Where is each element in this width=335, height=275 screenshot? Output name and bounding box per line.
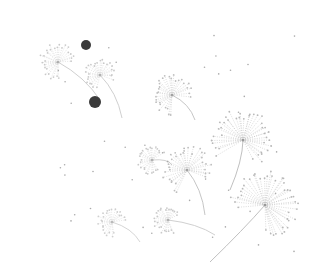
speck bbox=[225, 226, 227, 228]
speck bbox=[247, 64, 249, 66]
dandelion-seed bbox=[40, 44, 100, 100]
dandelion-seed bbox=[210, 171, 299, 263]
dandelion-seed bbox=[211, 111, 272, 190]
speck bbox=[64, 174, 66, 176]
dandelion-seed bbox=[153, 207, 215, 235]
speck bbox=[205, 178, 207, 180]
speck bbox=[275, 193, 277, 195]
speck bbox=[70, 103, 72, 105]
dandelion-seeds-art bbox=[0, 0, 335, 275]
speck bbox=[60, 167, 62, 169]
speck bbox=[90, 208, 92, 210]
speck bbox=[218, 73, 220, 75]
dandelion-seed bbox=[97, 208, 140, 242]
speck bbox=[124, 147, 126, 149]
speck bbox=[74, 214, 76, 216]
speck bbox=[92, 171, 94, 173]
speck bbox=[151, 233, 153, 235]
speck bbox=[249, 211, 251, 213]
dandelion-seed bbox=[162, 146, 212, 215]
speck bbox=[238, 111, 240, 113]
speck bbox=[64, 164, 66, 166]
speck bbox=[294, 35, 296, 37]
speck bbox=[213, 35, 215, 37]
speck bbox=[108, 47, 110, 49]
speck bbox=[115, 61, 117, 63]
speck bbox=[131, 179, 133, 181]
speck bbox=[230, 69, 232, 71]
speck bbox=[228, 190, 230, 192]
dandelion-seed bbox=[137, 146, 172, 175]
speck bbox=[204, 66, 206, 68]
speck bbox=[293, 251, 295, 253]
dandelion-illustration bbox=[0, 0, 335, 275]
speck bbox=[64, 81, 66, 83]
dandelion-seed bbox=[155, 74, 195, 120]
dark-seed-dot bbox=[81, 40, 91, 50]
speck bbox=[258, 244, 260, 246]
speck bbox=[162, 152, 164, 154]
speck bbox=[212, 236, 214, 238]
speck bbox=[57, 62, 59, 64]
speck bbox=[58, 70, 60, 72]
speck bbox=[144, 145, 146, 147]
speck bbox=[104, 140, 106, 142]
speck bbox=[142, 227, 144, 229]
speck bbox=[70, 220, 72, 222]
speck bbox=[276, 151, 278, 153]
speck bbox=[244, 96, 246, 98]
speck bbox=[215, 55, 217, 57]
dark-seed-dot bbox=[89, 96, 101, 108]
dandelion-seed bbox=[85, 59, 122, 118]
speck bbox=[189, 200, 191, 202]
speck bbox=[183, 148, 185, 150]
